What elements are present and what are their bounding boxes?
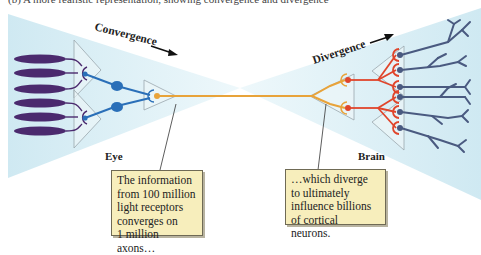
callout-line: light receptors (117, 201, 197, 215)
callout-line: of cortical neurons. (291, 214, 380, 241)
callout-line: influence billions (291, 200, 380, 214)
convergence-callout: The information from 100 million light r… (111, 170, 203, 236)
callout-line: from 100 million (117, 188, 197, 202)
callout-line: to ultimately (291, 187, 380, 201)
brain-label: Brain (358, 150, 385, 162)
callout-line: 1 million axons… (117, 228, 197, 255)
callout-line: converges on (117, 215, 197, 229)
convergence-label: Convergence (93, 20, 158, 48)
eye-label: Eye (105, 150, 123, 162)
divergence-callout: …which diverge to ultimately influence b… (285, 169, 386, 225)
convergence-arrow-icon (151, 46, 178, 56)
callout-line: The information (117, 174, 197, 188)
svg-text:Convergence: Convergence (93, 20, 158, 48)
callout-line: …which diverge (291, 173, 380, 187)
